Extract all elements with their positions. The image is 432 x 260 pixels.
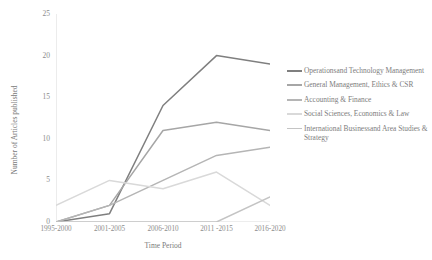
plot-area: 0510152025 xyxy=(56,14,270,222)
x-axis-title: Time Period xyxy=(144,241,181,250)
x-tick-label-1: 2001-2005 xyxy=(94,226,125,233)
series-line-5 xyxy=(56,197,270,222)
legend-swatch-icon-4 xyxy=(287,113,302,115)
y-axis-title: Number of Articles published xyxy=(10,86,19,175)
legend-item-5[interactable]: International Businessand Area Studies &… xyxy=(287,124,432,143)
y-tick-label-1: 5 xyxy=(46,177,56,185)
legend-swatch-icon-5 xyxy=(287,128,302,130)
chart-legend: Operationsand Technology ManagementGener… xyxy=(287,66,432,148)
y-tick-label-2: 10 xyxy=(43,135,57,143)
legend-swatch-icon-2 xyxy=(287,84,302,86)
y-tick-label-5: 25 xyxy=(43,10,57,18)
legend-item-4[interactable]: Social Sciences, Economics & Law xyxy=(287,109,432,118)
legend-item-2[interactable]: General Management, Ethics & CSR xyxy=(287,80,432,89)
legend-swatch-icon-3 xyxy=(287,99,302,101)
series-line-2 xyxy=(56,122,270,222)
legend-item-1[interactable]: Operationsand Technology Management xyxy=(287,66,432,75)
x-tick-label-4: 2016-2020 xyxy=(254,226,285,233)
legend-label-3: Accounting & Finance xyxy=(304,95,371,104)
legend-item-3[interactable]: Accounting & Finance xyxy=(287,95,432,104)
legend-label-1: Operationsand Technology Management xyxy=(304,66,424,75)
legend-swatch-icon-1 xyxy=(287,70,302,72)
y-tick-label-4: 20 xyxy=(43,52,57,60)
legend-label-5: International Businessand Area Studies &… xyxy=(304,124,432,143)
series-line-1 xyxy=(56,56,270,222)
x-tick-label-2: 2006-2010 xyxy=(147,226,178,233)
chart-page: Number of Articles published 0510152025 … xyxy=(0,0,432,260)
x-axis-tick-labels: 1995-20002001-20052006-20102011 -2015201… xyxy=(56,226,270,237)
legend-label-2: General Management, Ethics & CSR xyxy=(304,80,413,89)
x-tick-label-0: 1995-2000 xyxy=(40,226,71,233)
y-tick-label-3: 15 xyxy=(43,93,57,101)
series-line-4 xyxy=(56,172,270,205)
legend-label-4: Social Sciences, Economics & Law xyxy=(304,109,409,118)
x-tick-label-3: 2011 -2015 xyxy=(200,226,233,233)
chart-canvas xyxy=(56,14,270,222)
